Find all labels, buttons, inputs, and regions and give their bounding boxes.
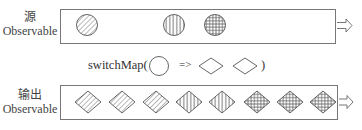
source-marble-grid (205, 15, 226, 36)
source-arrow-icon (337, 19, 352, 32)
operator-output-diamond-1 (199, 58, 223, 74)
operator-input-circle (150, 57, 169, 76)
marble-diagram (0, 0, 362, 130)
output-arrow-icon (339, 96, 353, 109)
operator-output-diamond-2 (233, 58, 257, 74)
source-timeline (61, 10, 336, 44)
source-marble-diagonal (77, 15, 98, 36)
source-marble-vertical (164, 15, 185, 36)
